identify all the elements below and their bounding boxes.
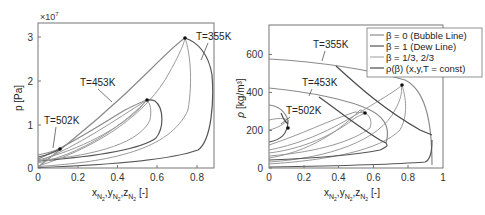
right-xtick-4: 0.8 — [401, 172, 415, 183]
legend: β = 0 (Bubble Line) β = 1 (Dew Line) β =… — [367, 28, 482, 77]
critical-point-453-rho — [363, 111, 367, 115]
leader-t502-left — [53, 127, 56, 148]
right-x-label: xN2,yN2,zN2[-] — [324, 187, 380, 202]
right-ytick-0: 0 — [257, 163, 263, 174]
legend-item-dew: β = 1 (Dew Line) — [386, 41, 456, 52]
mid-line-502-rho-a — [269, 119, 288, 121]
critical-point-453 — [145, 98, 149, 102]
left-y-label: p [Pa] — [13, 85, 24, 111]
left-y-multiplier: ×107 — [40, 11, 59, 22]
right-ytick-200: 200 — [246, 125, 263, 136]
annotation-t453-left: T=453K — [80, 77, 116, 88]
right-xtick-1: 0.2 — [297, 172, 311, 183]
right-y-label: ρ[kg/m³] — [235, 78, 246, 119]
left-xtick-0: 0 — [35, 172, 41, 183]
right-panel: 0 200 400 600 0 0.2 0.4 0.6 0.8 1 ρ[kg/m… — [235, 25, 482, 202]
figure: 0 1 2 3 ×107 0 0.2 0.4 0.6 0.8 p [Pa] xN… — [0, 0, 485, 215]
leader-t502-right — [281, 117, 290, 124]
left-xtick-2: 0.4 — [111, 172, 125, 183]
dew-line-355 — [38, 38, 213, 168]
left-ytick-1: 1 — [27, 120, 33, 131]
right-xtick-5: 1 — [440, 172, 446, 183]
left-panel: 0 1 2 3 ×107 0 0.2 0.4 0.6 0.8 p [Pa] xN… — [13, 11, 232, 202]
left-ytick-3: 3 — [27, 32, 33, 43]
left-ytick-2: 2 — [27, 76, 33, 87]
left-xtick-4: 0.8 — [190, 172, 204, 183]
right-ytick-400: 400 — [246, 87, 263, 98]
left-xtick-1: 0.2 — [71, 172, 85, 183]
legend-item-rho: ρ(β) (x,y,T = const) — [386, 63, 465, 74]
left-y-ticks: 0 1 2 3 — [27, 32, 41, 174]
left-ytick-0: 0 — [27, 163, 33, 174]
right-xtick-2: 0.4 — [332, 172, 346, 183]
leader-t355-right — [322, 51, 325, 61]
annotation-t355-left: T=355K — [196, 31, 232, 42]
left-xtick-3: 0.6 — [150, 172, 164, 183]
critical-point-502-rho — [286, 126, 290, 130]
mid-line-355-rho-a — [269, 85, 402, 162]
critical-point-355-rho — [400, 83, 404, 87]
leader-t453-right — [309, 89, 312, 96]
leader-t453-left — [98, 89, 112, 102]
critical-point-355 — [183, 36, 187, 40]
right-y-ticks: 0 200 400 600 — [246, 49, 272, 174]
annotation-t355-right: T=355K — [313, 39, 349, 50]
annotation-t502-left: T=502K — [44, 115, 80, 126]
left-x-label: xN2,yN2,zN2[-] — [92, 187, 148, 202]
annotation-t502-right: T=502K — [286, 105, 322, 116]
right-xtick-3: 0.6 — [367, 172, 381, 183]
right-ytick-600: 600 — [246, 49, 263, 60]
legend-item-bubble: β = 0 (Bubble Line) — [386, 30, 467, 41]
bubble-line-453 — [38, 100, 147, 159]
legend-item-mid: β = 1/3, 2/3 — [386, 52, 434, 63]
critical-point-502 — [58, 147, 62, 151]
annotation-t453-right: T=453K — [302, 77, 338, 88]
mid-line-502-ext-b — [38, 100, 147, 163]
left-curves — [38, 38, 213, 168]
right-xtick-0: 0 — [266, 172, 272, 183]
